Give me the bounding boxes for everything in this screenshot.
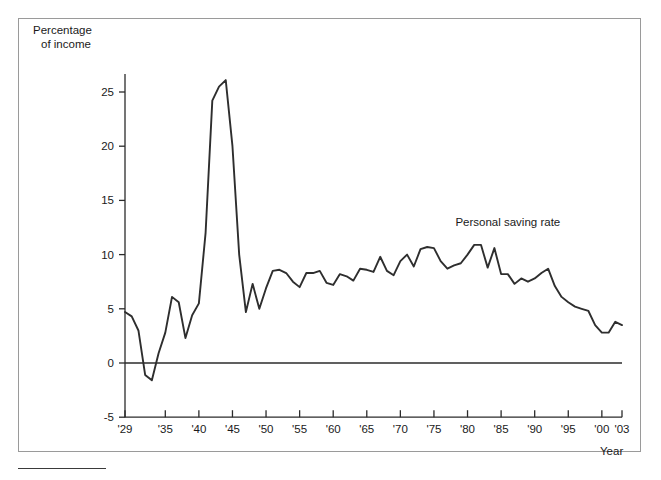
x-tick-label: '35 <box>158 423 173 435</box>
x-tick-label: '40 <box>191 423 206 435</box>
y-axis: -50510152025 <box>101 74 125 423</box>
x-tick-label: '00 <box>594 423 609 435</box>
x-tick-label: '60 <box>326 423 341 435</box>
series-annotation-label: Personal saving rate <box>455 216 560 228</box>
personal-saving-rate-chart: -50510152025 '29'35'40'45'50'55'60'65'70… <box>0 0 661 480</box>
y-tick-label: 15 <box>101 194 114 206</box>
x-tick-label: '95 <box>561 423 576 435</box>
x-tick-label: '50 <box>259 423 274 435</box>
y-tick-label: 20 <box>101 140 114 152</box>
y-tick-label: 25 <box>101 86 114 98</box>
y-tick-label: 5 <box>108 303 114 315</box>
y-axis-title-line2: of income <box>41 38 91 50</box>
chart-text-labels: Percentageof incomeYearPersonal saving r… <box>33 24 623 457</box>
x-tick-label: '80 <box>460 423 475 435</box>
x-tick-label: '65 <box>359 423 374 435</box>
x-axis: '29'35'40'45'50'55'60'65'70'75'80'85'90'… <box>118 410 630 435</box>
x-tick-label: '45 <box>225 423 240 435</box>
x-tick-label: '90 <box>527 423 542 435</box>
x-tick-label: '55 <box>292 423 307 435</box>
footnote-rule <box>18 468 106 469</box>
series-line-personal-saving-rate <box>125 80 622 380</box>
y-tick-label: 0 <box>108 357 114 369</box>
y-tick-label: 10 <box>101 249 114 261</box>
y-tick-label: -5 <box>104 411 114 423</box>
x-tick-label: '03 <box>615 423 630 435</box>
y-axis-title-line1: Percentage <box>33 24 92 36</box>
x-tick-label: '29 <box>118 423 133 435</box>
x-tick-label: '70 <box>393 423 408 435</box>
data-series-personal-saving-rate <box>125 80 622 380</box>
x-tick-label: '85 <box>494 423 509 435</box>
x-axis-title: Year <box>600 445 623 457</box>
x-tick-label: '75 <box>426 423 441 435</box>
